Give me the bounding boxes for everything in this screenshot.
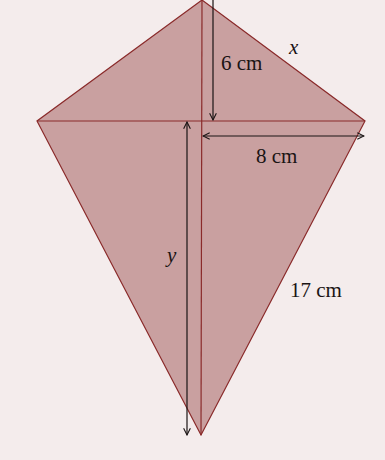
kite-figure <box>0 0 385 460</box>
label-x: x <box>289 37 298 58</box>
label-17cm: 17 cm <box>290 280 342 301</box>
label-y: y <box>167 245 176 266</box>
kite-diagram: 6 cm x 8 cm y 17 cm <box>0 0 385 460</box>
label-6cm: 6 cm <box>221 53 262 74</box>
label-8cm: 8 cm <box>256 146 297 167</box>
